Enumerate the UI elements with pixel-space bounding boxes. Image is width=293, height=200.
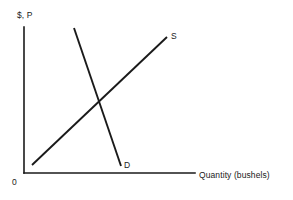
demand-curve-label: D xyxy=(124,161,130,170)
demand-curve xyxy=(74,28,121,166)
y-axis-label: $, P xyxy=(17,11,33,20)
supply-curve-label: S xyxy=(171,32,177,41)
origin-label: 0 xyxy=(12,178,17,187)
x-axis-label: Quantity (bushels) xyxy=(199,171,270,180)
supply-demand-chart: $, P 0 Quantity (bushels) S D xyxy=(0,0,293,200)
